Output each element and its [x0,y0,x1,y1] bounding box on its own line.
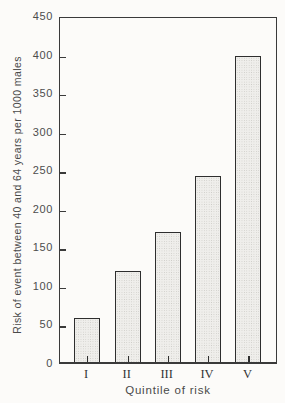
x-tick-label: V [243,367,252,382]
x-tick-mark [168,356,169,362]
y-tick-label: 200 [18,203,53,215]
y-tick-mark [60,95,66,96]
x-tick-mark [248,356,249,362]
plot-area [59,17,277,364]
y-tick-label: 250 [18,164,53,176]
bar-chart-figure: Risk of event between 40 and 64 years pe… [0,0,285,403]
y-tick-mark [60,134,66,135]
y-tick-label: 300 [18,126,53,138]
y-tick-label: 150 [18,241,53,253]
y-tick-label: 400 [18,49,53,61]
y-tick-mark [60,57,66,58]
x-tick-label: II [123,367,131,382]
bar-quintile-IV [195,176,221,362]
x-tick-mark [208,356,209,362]
bar-quintile-II [115,271,141,362]
y-tick-mark [60,326,66,327]
x-tick-mark [87,356,88,362]
y-tick-label: 50 [18,318,53,330]
x-tick-label: I [84,367,88,382]
y-tick-label: 100 [18,280,53,292]
y-tick-mark [60,249,66,250]
y-tick-label: 0 [18,357,53,369]
y-tick-label: 350 [18,87,53,99]
x-tick-label: III [160,367,173,382]
x-tick-mark [128,356,129,362]
y-tick-mark [60,172,66,173]
y-tick-mark [60,288,66,289]
x-tick-label: IV [200,367,213,382]
y-tick-label: 450 [18,10,53,22]
bar-quintile-V [235,56,261,362]
x-axis-title: Quintile of risk [59,384,277,396]
y-tick-mark [60,211,66,212]
bar-quintile-III [155,232,181,362]
